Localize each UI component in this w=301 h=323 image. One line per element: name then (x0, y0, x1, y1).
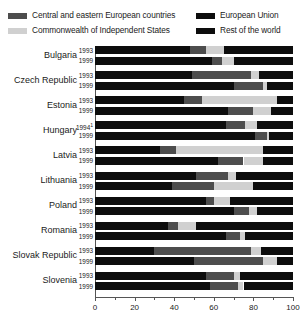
bar-segment-row (263, 146, 293, 154)
bar-segment-row (224, 46, 293, 54)
bar-row (95, 82, 293, 90)
bar-segment-row (269, 132, 293, 140)
bar-segment-eu (95, 197, 206, 205)
bar-segment-cis (206, 46, 224, 54)
bar-segment-cis (253, 107, 271, 115)
year-label: 19941 (76, 122, 93, 131)
bar-segment-eu (95, 82, 234, 90)
bar-row (95, 96, 293, 104)
bar-segment-cee (192, 71, 251, 79)
bar-segment-cis (251, 71, 259, 79)
bar-group (95, 146, 293, 165)
bar-segment-row (271, 107, 293, 115)
country-label: Hungary (43, 125, 77, 135)
year-label: 1999 (79, 132, 93, 139)
x-axis-tick (253, 297, 254, 301)
bar-segment-cee (234, 207, 250, 215)
plot-area (95, 46, 293, 297)
year-label: 1993 (79, 197, 93, 204)
bar-segment-row (257, 121, 293, 129)
x-axis: 020406080100 (95, 297, 293, 321)
bar-row (95, 46, 293, 54)
bar-segment-cee (160, 146, 176, 154)
x-axis-minor-tick (273, 297, 274, 300)
bar-segment-cee (255, 132, 267, 140)
country-label: Lithuania (40, 175, 77, 185)
legend-item-row: Rest of the world (196, 23, 281, 38)
bar-row (95, 207, 293, 215)
bar-row (95, 182, 293, 190)
bar-segment-cee (226, 121, 246, 129)
legend-label-cee: Central and eastern European countries (32, 11, 175, 20)
bar-segment-eu (95, 207, 234, 215)
bar-segment-row (240, 272, 293, 280)
bar-segment-eu (95, 157, 218, 165)
year-label: 1999 (79, 283, 93, 290)
bar-segment-cee (206, 272, 234, 280)
bar-segment-cis (244, 157, 264, 165)
bar-group (95, 121, 293, 140)
x-axis-tick (135, 297, 136, 301)
bar-segment-eu (95, 107, 228, 115)
bar-segment-eu (95, 272, 206, 280)
bar-segment-cee (228, 107, 254, 115)
bar-row (95, 157, 293, 165)
bar-segment-row (257, 207, 293, 215)
year-label: 1999 (79, 258, 93, 265)
stacked-bar-chart: Central and eastern European countriesCo… (0, 0, 301, 323)
bar-segment-row (230, 197, 293, 205)
bar-segment-eu (95, 282, 210, 290)
bar-segment-cee (168, 222, 178, 230)
x-axis-tick-label: 100 (286, 303, 299, 312)
year-label: 1993 (79, 147, 93, 154)
bar-segment-eu (95, 132, 255, 140)
bar-segment-eu (95, 232, 226, 240)
bar-group (95, 46, 293, 65)
bar-row (95, 71, 293, 79)
bar-segment-row (196, 222, 293, 230)
bar-segment-row (267, 82, 293, 90)
country-label: Poland (49, 200, 77, 210)
country-label: Czech Republic (14, 75, 77, 85)
bar-segment-row (236, 172, 293, 180)
bar-segment-row (277, 257, 293, 265)
bar-row (95, 132, 293, 140)
bar-segment-cis (202, 96, 277, 104)
x-axis-tick-label: 40 (170, 303, 179, 312)
x-axis-tick (214, 297, 215, 301)
x-axis-minor-tick (154, 297, 155, 300)
bar-group (95, 197, 293, 216)
year-label: 1999 (79, 183, 93, 190)
bar-segment-eu (95, 257, 194, 265)
country-label: Slovak Republic (12, 250, 77, 260)
bar-segment-row (245, 232, 293, 240)
bar-group (95, 71, 293, 90)
year-label: 1993 (79, 47, 93, 54)
year-label: 1999 (79, 57, 93, 64)
bar-segment-cis (228, 172, 236, 180)
year-label: 1993 (79, 172, 93, 179)
bar-segment-cis (178, 222, 196, 230)
bar-segment-row (277, 96, 293, 104)
bar-segment-cee (226, 232, 240, 240)
bar-row (95, 282, 293, 290)
legend-item-cis: Commonwealth of Independent States (8, 23, 175, 38)
bar-row (95, 222, 293, 230)
bar-segment-cee (154, 247, 251, 255)
bar-segment-cee (218, 157, 244, 165)
bar-segment-eu (95, 121, 226, 129)
country-label: Romania (41, 225, 77, 235)
bar-row (95, 232, 293, 240)
year-label: 1993 (79, 222, 93, 229)
bar-group (95, 247, 293, 266)
bar-row (95, 146, 293, 154)
bar-segment-eu (95, 96, 184, 104)
bar-segment-eu (95, 172, 196, 180)
bar-segment-cis (263, 257, 277, 265)
bar-segment-eu (95, 222, 168, 230)
year-label: 1999 (79, 208, 93, 215)
bar-row (95, 172, 293, 180)
bar-row (95, 197, 293, 205)
bar-segment-cis (245, 121, 257, 129)
country-label: Bulgaria (44, 50, 77, 60)
